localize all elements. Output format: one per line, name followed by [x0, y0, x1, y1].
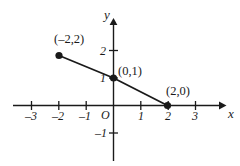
y-tick-label-1: 1 — [100, 72, 106, 84]
point-label-2-0: (2,0) — [166, 85, 190, 98]
coordinate-plane-figure: y x O –3 –2 –1 1 2 3 2 1 –1 (–2,2) (0,1)… — [0, 0, 240, 166]
data-point-0-1 — [110, 74, 117, 81]
x-axis-arrowhead — [219, 102, 227, 110]
x-tick-label-3: 3 — [192, 110, 198, 122]
plot-canvas — [0, 0, 240, 166]
data-point-minus2-2 — [55, 52, 62, 59]
origin-label: O — [101, 109, 110, 121]
x-tick-label--3: –3 — [25, 110, 37, 122]
x-tick-label--2: –2 — [52, 110, 64, 122]
y-axis — [110, 18, 118, 161]
y-axis-label: y — [104, 8, 110, 21]
y-tick-label-2: 2 — [100, 45, 106, 57]
point-label-0-1: (0,1) — [118, 65, 142, 78]
y-axis-arrowhead — [110, 18, 118, 25]
y-tick-label--1: –1 — [95, 127, 107, 139]
x-tick-label-2: 2 — [165, 110, 171, 122]
x-tick-label--1: –1 — [79, 110, 91, 122]
x-axis-label: x — [228, 107, 234, 120]
point-label-minus2-2: (–2,2) — [54, 33, 84, 46]
x-tick-label-1: 1 — [138, 110, 144, 122]
